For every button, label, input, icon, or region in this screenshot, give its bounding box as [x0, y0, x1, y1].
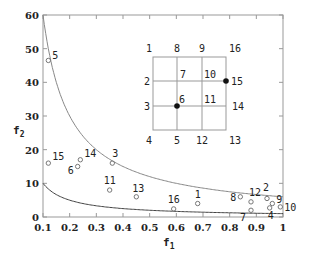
data-point: [78, 158, 82, 162]
data-point-label: 15: [52, 151, 64, 162]
inset-node-label: 13: [229, 135, 241, 146]
data-point-label: 10: [284, 202, 296, 213]
inset-highlight-node: [223, 78, 229, 84]
x-axis-label: f1: [163, 236, 175, 251]
inset-node-label: 3: [144, 101, 150, 112]
data-point: [134, 195, 138, 199]
data-point-label: 6: [68, 165, 74, 176]
y-tick-label: 20: [25, 145, 39, 156]
data-point-label: 16: [168, 194, 180, 205]
data-point: [195, 201, 199, 205]
data-point: [278, 205, 282, 209]
data-point: [270, 201, 274, 205]
data-point-label: 2: [263, 182, 269, 193]
x-tick-label: 0.9: [248, 222, 265, 233]
x-tick-label: 1: [280, 222, 287, 233]
x-tick-label: 0.5: [141, 222, 158, 233]
inset-node-label: 8: [174, 43, 180, 54]
data-point: [107, 188, 111, 192]
data-point-label: 14: [84, 148, 96, 159]
inset-node-label: 4: [146, 135, 152, 146]
y-tick-label: 50: [25, 44, 39, 55]
data-point: [46, 161, 50, 165]
inset-node-label: 14: [232, 101, 244, 112]
data-point-label: 3: [112, 148, 118, 159]
data-point-label: 8: [230, 192, 236, 203]
inset-node-label: 15: [231, 76, 243, 87]
data-point: [75, 164, 79, 168]
y-tick-label: 40: [25, 77, 39, 88]
inset-node-label: 11: [204, 94, 216, 105]
y-axis-label: f2: [13, 124, 25, 139]
data-point: [110, 161, 114, 165]
data-point-label: 13: [132, 183, 144, 194]
inset-node-label: 6: [179, 94, 185, 105]
inset-grid-diagram: 18916271015361114451213: [144, 43, 244, 146]
inset-node-label: 2: [144, 76, 150, 87]
inset-node-label: 5: [174, 135, 180, 146]
x-tick-label: 0.8: [221, 222, 238, 233]
x-tick-label: 0.6: [168, 222, 185, 233]
data-point: [46, 58, 50, 62]
inset-highlight-node: [174, 103, 180, 109]
inset-node-label: 10: [204, 69, 216, 80]
data-point-label: 7: [240, 212, 246, 223]
inset-node-label: 1: [146, 43, 152, 54]
data-point: [238, 195, 242, 199]
data-point-label: 1: [195, 189, 201, 200]
data-point-label: 4: [268, 210, 274, 221]
data-point: [171, 207, 175, 211]
y-tick-label: 30: [25, 111, 39, 122]
y-tick-label: 0: [32, 212, 39, 223]
y-tick-label: 60: [25, 10, 39, 21]
scatter-chart: 0.10.20.30.40.50.60.70.80.91010203040506…: [0, 0, 309, 260]
x-tick-label: 0.1: [34, 222, 51, 233]
data-point: [265, 196, 269, 200]
data-point-label: 11: [104, 175, 116, 186]
inset-node-label: 9: [199, 43, 205, 54]
data-point-label: 12: [249, 187, 261, 198]
x-tick-label: 0.3: [88, 222, 105, 233]
inset-node-label: 16: [229, 43, 241, 54]
inset-node-label: 7: [180, 69, 186, 80]
data-point-label: 5: [52, 50, 58, 61]
x-tick-label: 0.2: [61, 222, 78, 233]
x-tick-label: 0.7: [194, 222, 211, 233]
inset-node-label: 12: [196, 135, 208, 146]
data-point: [249, 208, 253, 212]
lower-bound-curve: [43, 183, 283, 213]
y-tick-label: 10: [25, 178, 39, 189]
data-point-label: 9: [276, 194, 282, 205]
x-tick-label: 0.4: [114, 222, 131, 233]
data-point: [249, 200, 253, 204]
